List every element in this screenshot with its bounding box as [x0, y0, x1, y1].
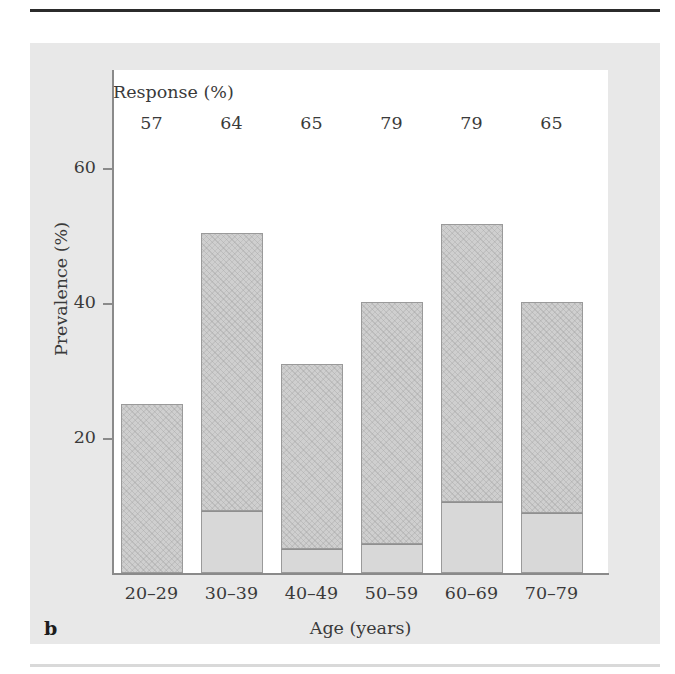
response-value-5: 65	[521, 113, 583, 133]
y-tick-60: 60	[103, 168, 113, 170]
bar-20-29[interactable]	[121, 404, 183, 573]
y-tick-40: 40	[103, 303, 113, 305]
y-tick-20: 20	[103, 438, 113, 440]
bar-hatch-icon	[442, 225, 502, 501]
bar-upper-60-69	[441, 224, 503, 502]
y-tick-label-20: 20	[74, 427, 96, 447]
bar-70-79[interactable]	[521, 302, 583, 573]
x-tick-label-40-49: 40–49	[271, 583, 353, 603]
bar-30-39[interactable]	[201, 233, 263, 573]
bar-hatch-icon	[522, 303, 582, 512]
response-annotation-title: Response (%)	[113, 82, 234, 102]
bar-hatch-icon	[362, 303, 422, 543]
x-tick-label-70-79: 70–79	[511, 583, 593, 603]
bottom-divider-rule	[30, 664, 660, 667]
bar-50-59[interactable]	[361, 302, 423, 573]
response-value-1: 64	[201, 113, 263, 133]
bar-hatch-icon	[282, 365, 342, 548]
bar-lower-60-69	[441, 502, 503, 573]
panel-letter: b	[44, 617, 57, 639]
bar-hatch-icon	[202, 234, 262, 510]
response-value-2: 65	[281, 113, 343, 133]
y-axis-line	[112, 70, 114, 574]
x-tick-label-20-29: 20–29	[111, 583, 193, 603]
x-axis-title: Age (years)	[113, 618, 608, 638]
bar-lower-40-49	[281, 549, 343, 573]
bar-upper-30-39	[201, 233, 263, 511]
y-axis-title: Prevalence (%)	[51, 179, 71, 399]
y-tick-label-40: 40	[74, 292, 96, 312]
bar-hatch-icon	[122, 405, 182, 572]
bar-upper-70-79	[521, 302, 583, 513]
figure-panel: 60 40 20 Prevalence (%) Age (years) b Re…	[30, 43, 660, 644]
x-axis-line	[112, 573, 609, 575]
bar-upper-40-49	[281, 364, 343, 549]
response-value-3: 79	[361, 113, 423, 133]
top-divider-rule	[30, 9, 660, 12]
bar-lower-30-39	[201, 511, 263, 573]
x-tick-label-60-69: 60–69	[431, 583, 513, 603]
bar-lower-50-59	[361, 544, 423, 573]
bar-60-69[interactable]	[441, 224, 503, 573]
x-tick-label-50-59: 50–59	[351, 583, 433, 603]
y-tick-label-60: 60	[74, 157, 96, 177]
bar-upper-50-59	[361, 302, 423, 544]
bar-40-49[interactable]	[281, 364, 343, 573]
response-value-4: 79	[441, 113, 503, 133]
x-tick-label-30-39: 30–39	[191, 583, 273, 603]
bar-upper-20-29	[121, 404, 183, 573]
bar-lower-70-79	[521, 513, 583, 573]
response-value-0: 57	[121, 113, 183, 133]
